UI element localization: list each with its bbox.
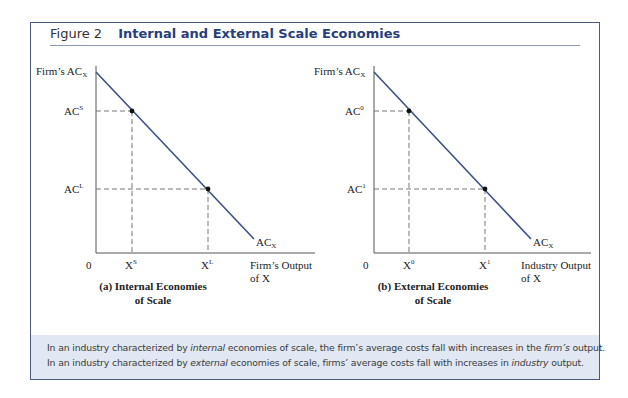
- caption-line-1: In an industry characterized by internal…: [47, 342, 605, 353]
- x-tick-x1: X1: [479, 258, 491, 271]
- x-axis-label-line2: of X: [521, 272, 541, 284]
- guide-lines: [374, 111, 485, 253]
- point-large-firm: [206, 187, 211, 192]
- curve-label: ACX: [533, 236, 553, 250]
- panel-caption-line2: of Scale: [135, 294, 171, 306]
- x-axis-label-line1: Firm’s Output: [250, 259, 312, 271]
- panel-caption-line1: (b) External Economies: [378, 280, 489, 293]
- figure-caption: In an industry characterized by internal…: [31, 335, 599, 379]
- caption-line-2: In an industry characterized by external…: [47, 357, 584, 368]
- y-axis-label: Firm’s ACX: [36, 65, 87, 79]
- chart-external-economies: Firm’s ACX AC0 AC1 ACX 0 X0 X1 Industry …: [314, 65, 591, 306]
- origin-label: 0: [363, 259, 369, 271]
- ac-curve: [96, 72, 254, 239]
- point-small-firm: [130, 109, 135, 114]
- x-tick-xs: XS: [125, 258, 137, 271]
- x-tick-xl: XL: [201, 258, 213, 271]
- x-tick-x0: X0: [403, 258, 415, 271]
- curve-label: ACX: [256, 236, 276, 250]
- y-tick-acl: ACL: [64, 182, 84, 195]
- y-tick-ac1: AC1: [347, 182, 366, 195]
- y-axis-label: Firm’s ACX: [314, 65, 365, 79]
- ac-curve: [374, 72, 531, 239]
- x-axis-label-line2: of X: [250, 272, 270, 284]
- point-small-industry: [407, 109, 412, 114]
- y-tick-ac0: AC0: [345, 104, 364, 117]
- panel-caption-line1: (a) Internal Economies: [99, 280, 207, 293]
- y-tick-acs: ACS: [64, 104, 83, 117]
- chart-internal-economies: Firm’s ACX ACS ACL ACX 0 XS XL Firm’s Ou…: [36, 65, 315, 306]
- x-axis-label-line1: Industry Output: [521, 259, 591, 271]
- panel-caption-line2: of Scale: [415, 294, 451, 306]
- point-large-industry: [483, 187, 488, 192]
- origin-label: 0: [86, 259, 92, 271]
